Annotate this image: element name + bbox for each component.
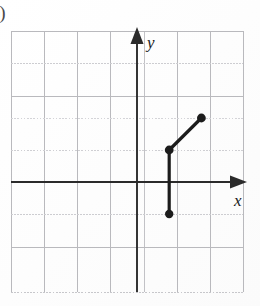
paper-background [0,0,260,306]
problem-item-label: )) [0,2,5,24]
x-axis-label: x [233,191,242,210]
coordinate-plane-svg: y x [0,0,260,306]
endpoint-dot-middle [165,146,174,155]
y-axis-label: y [145,33,155,52]
coordinate-grid-figure: )) [0,0,260,306]
endpoint-dot-lower [165,210,173,218]
endpoint-dot-upper [197,114,206,123]
